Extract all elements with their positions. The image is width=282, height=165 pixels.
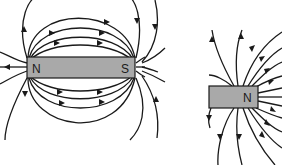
north-pole-label-right: N <box>243 91 252 105</box>
magnetic-field-diagram: N S N <box>0 0 282 165</box>
field-lines-svg: N S N <box>0 0 282 165</box>
south-pole-label: S <box>121 62 129 76</box>
bar-magnet: N S <box>27 57 135 78</box>
left-panel-outer-lines <box>142 0 165 138</box>
single-pole-magnet: N <box>209 86 258 108</box>
north-pole-label: N <box>32 62 41 76</box>
